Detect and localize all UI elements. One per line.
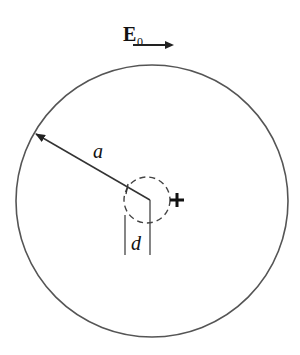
diagram-canvas: E 0 a d bbox=[0, 0, 300, 355]
point-charge-plus-icon bbox=[170, 193, 184, 207]
outer-sphere bbox=[16, 65, 288, 337]
charge-orbit-dashed bbox=[124, 177, 170, 223]
offset-label: d bbox=[131, 232, 142, 254]
radius-label: a bbox=[93, 140, 103, 162]
field-label-subscript: 0 bbox=[137, 35, 143, 49]
field-label-e: E bbox=[123, 23, 136, 45]
